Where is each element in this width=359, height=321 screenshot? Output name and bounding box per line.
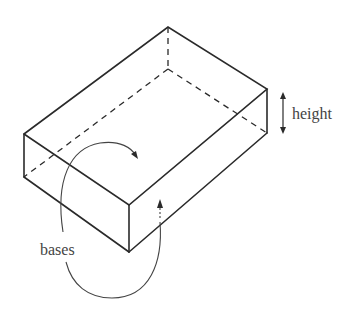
bases-label: bases <box>40 241 75 258</box>
height-label: height <box>292 105 333 123</box>
visible-edges <box>24 27 267 252</box>
height-arrow-icon <box>280 92 286 134</box>
hidden-left-edge <box>24 69 168 177</box>
top-face <box>24 27 267 205</box>
bases-arrows-icon <box>61 142 163 298</box>
prism-diagram: height bases <box>0 0 359 321</box>
hidden-edges <box>24 27 267 177</box>
bottom-right-edge <box>129 133 267 252</box>
